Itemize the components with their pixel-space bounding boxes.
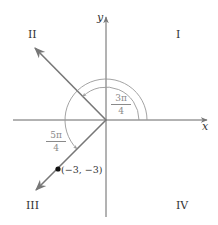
x-axis-label: x [202, 120, 208, 133]
angle-denominator: 4 [111, 105, 131, 116]
terminal-ray-3pi-4 [35, 48, 106, 120]
point-label: (−3, −3) [61, 164, 102, 175]
angle-label-5pi-4: 5π 4 [46, 130, 66, 153]
quadrant-label-IV: IV [176, 199, 188, 212]
quadrant-label-III: III [26, 199, 39, 212]
angle-numerator: 5π [46, 130, 66, 142]
angle-numerator: 3π [111, 93, 131, 105]
angle-label-3pi-4: 3π 4 [111, 93, 131, 116]
angle-diagram: y x II I III IV 3π 4 5π 4 (−3, −3) [0, 0, 218, 225]
angle-denominator: 4 [46, 142, 66, 153]
quadrant-label-I: I [176, 28, 180, 41]
quadrant-label-II: II [28, 28, 37, 41]
point-marker [55, 166, 60, 171]
y-axis-label: y [97, 11, 103, 24]
